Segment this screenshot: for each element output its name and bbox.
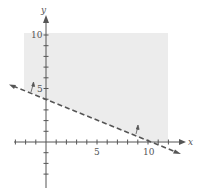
graph: x y 5 10 10 5 bbox=[0, 0, 198, 194]
y-axis-label: y bbox=[40, 5, 47, 15]
y-axis-arrow-icon bbox=[43, 15, 49, 23]
y-tick-label-5: 5 bbox=[37, 84, 43, 94]
line-arrow-right-icon bbox=[173, 150, 181, 155]
line-arrow-left-icon bbox=[9, 85, 16, 90]
x-axis-arrow-icon bbox=[179, 139, 186, 145]
y-tick-label-10: 10 bbox=[31, 30, 43, 40]
x-tick-label-10: 10 bbox=[143, 147, 155, 157]
x-axis-label: x bbox=[188, 137, 193, 147]
x-tick-label-5: 5 bbox=[94, 147, 100, 157]
